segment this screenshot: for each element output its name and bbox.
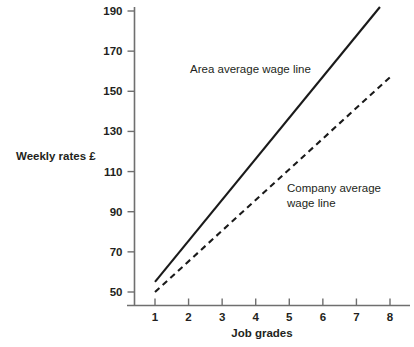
y-tick-label: 90 (110, 206, 123, 218)
chart-annotations: Area average wage lineCompany averagewag… (190, 63, 381, 209)
y-tick-label: 110 (104, 166, 123, 178)
x-tick-label: 4 (253, 311, 260, 323)
x-axis-title: Job grades (231, 327, 292, 339)
y-axis-ticks: 507090110130150170190 (103, 5, 134, 298)
x-tick-label: 3 (219, 311, 225, 323)
line-chart: 507090110130150170190 12345678 Weekly ra… (0, 0, 414, 347)
x-tick-label: 8 (387, 311, 394, 323)
y-tick-label: 190 (103, 5, 122, 17)
y-tick-label: 50 (110, 286, 123, 298)
x-tick-label: 1 (152, 311, 159, 323)
y-tick-label: 130 (103, 125, 122, 137)
company-line-annotation: Company averagewage line (286, 182, 381, 209)
area-average-wage-line (155, 7, 380, 282)
area-line-annotation: Area average wage line (190, 63, 311, 75)
x-axis-ticks: 12345678 (152, 299, 394, 323)
x-tick-label: 2 (185, 311, 191, 323)
y-axis-title: Weekly rates £ (16, 150, 96, 162)
y-tick-label: 70 (110, 246, 123, 258)
y-tick-label: 150 (103, 85, 122, 97)
chart-axes (127, 7, 410, 306)
x-tick-label: 5 (286, 311, 293, 323)
x-tick-label: 7 (353, 311, 359, 323)
y-tick-label: 170 (103, 45, 122, 57)
chart-series (155, 7, 390, 292)
chart-container: 507090110130150170190 12345678 Weekly ra… (0, 0, 414, 347)
x-tick-label: 6 (320, 311, 326, 323)
